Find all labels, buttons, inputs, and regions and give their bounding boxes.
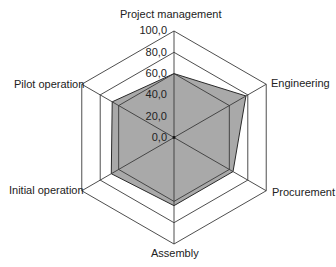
axis-label-procurement: Procurement [272, 186, 335, 199]
tick-label-40: 40,0 [131, 88, 167, 100]
axis-label-engineering: Engineering [271, 77, 330, 90]
radar-chart [0, 0, 336, 267]
axis-label-initial-operation: Initial operation [9, 184, 84, 197]
tick-label-60: 60,0 [131, 67, 167, 79]
axis-label-assembly: Assembly [151, 247, 199, 260]
tick-label-100: 100,0 [131, 24, 167, 36]
center-point [173, 136, 176, 139]
axis-label-pilot-operation: Pilot operation [14, 78, 84, 91]
tick-label-20: 20,0 [131, 110, 167, 122]
tick-label-80: 80,0 [131, 46, 167, 58]
tick-label-0: 0,0 [131, 131, 167, 143]
axis-label-project-management: Project management [120, 8, 222, 21]
